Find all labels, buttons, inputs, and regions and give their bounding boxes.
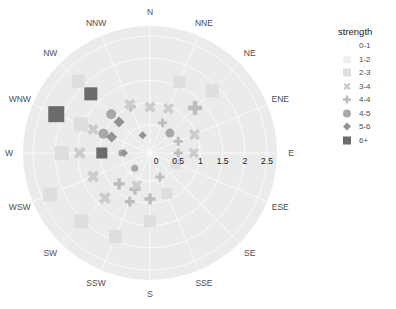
legend-item: 2-3 xyxy=(338,66,396,80)
data-point-2-3 xyxy=(161,188,172,199)
direction-label-nnw: NNW xyxy=(86,18,106,28)
radial-tick-label: 0 xyxy=(154,156,159,166)
data-point-4-5 xyxy=(106,109,116,119)
direction-label-wsw: WSW xyxy=(9,202,31,212)
radial-tick-label: 0.5 xyxy=(172,156,184,166)
legend-item: 4-5 xyxy=(338,107,396,121)
direction-label-w: W xyxy=(5,148,13,158)
legend-item: 6+ xyxy=(338,134,396,148)
direction-label-e: E xyxy=(288,148,294,158)
plus-icon xyxy=(343,96,351,104)
legend-label: 3-4 xyxy=(359,82,371,91)
data-point-6plus xyxy=(48,106,64,122)
legend-label: 6+ xyxy=(359,136,368,145)
radial-tick-label: 1.5 xyxy=(217,156,229,166)
legend: strength 0-11-22-33-44-44-55-66+ xyxy=(338,26,396,147)
legend-key-square-icon xyxy=(338,66,356,79)
data-point-4-5 xyxy=(165,129,174,138)
wind-rose-chart: 00.511.522.5 NNNENEENEEESESESSESSSWSWWSW… xyxy=(0,0,396,309)
data-point-2-3 xyxy=(55,146,69,160)
legend-label: 4-5 xyxy=(359,109,371,118)
legend-label: 4-4 xyxy=(359,95,371,104)
legend-item: 5-6 xyxy=(338,120,396,134)
direction-label-sse: SSE xyxy=(195,278,212,288)
data-point-6plus xyxy=(84,87,97,100)
legend-key-diamond-icon xyxy=(338,120,356,133)
direction-label-nw: NW xyxy=(43,48,57,58)
legend-label: 5-6 xyxy=(359,122,371,131)
direction-label-ssw: SSW xyxy=(86,278,105,288)
legend-key-plus-icon xyxy=(338,93,356,106)
legend-title: strength xyxy=(338,26,396,37)
data-point-2-3 xyxy=(206,84,219,97)
radial-tick-label: 2 xyxy=(242,156,247,166)
data-point-2-3 xyxy=(109,230,122,243)
data-point-2-3 xyxy=(43,187,57,201)
legend-item: 0-1 xyxy=(338,39,396,53)
legend-key-circle-icon xyxy=(338,53,356,66)
data-point-6plus xyxy=(96,148,107,159)
legend-item: 4-4 xyxy=(338,93,396,107)
circle-icon xyxy=(343,55,351,63)
square-icon xyxy=(343,69,351,77)
circle-icon xyxy=(343,109,351,117)
legend-item: 3-4 xyxy=(338,80,396,94)
data-point-4-5 xyxy=(131,165,138,172)
direction-label-ese: ESE xyxy=(272,202,289,212)
dot-icon xyxy=(346,44,349,47)
radial-tick-label: 2.5 xyxy=(261,156,273,166)
data-point-2-3 xyxy=(144,215,156,227)
legend-label: 1-2 xyxy=(359,55,371,64)
legend-key-square-icon xyxy=(338,134,356,147)
data-point-2-3 xyxy=(72,75,85,88)
direction-label-s: S xyxy=(147,289,153,299)
radial-tick-label: 1 xyxy=(198,156,203,166)
direction-label-wnw: WNW xyxy=(9,94,31,104)
legend-label: 0-1 xyxy=(359,41,371,50)
data-point-2-3 xyxy=(74,215,88,229)
data-point-2-3 xyxy=(173,76,185,88)
data-point-2-3 xyxy=(74,117,88,131)
direction-label-n: N xyxy=(147,7,153,17)
legend-key-circle-icon xyxy=(338,107,356,120)
square-icon xyxy=(343,136,351,144)
legend-key-cross-icon xyxy=(338,80,356,93)
legend-item: 1-2 xyxy=(338,53,396,67)
legend-key-dot-icon xyxy=(338,39,356,52)
legend-label: 2-3 xyxy=(359,68,371,77)
direction-label-ne: NE xyxy=(244,48,256,58)
cross-icon xyxy=(341,81,352,92)
direction-label-se: SE xyxy=(244,248,256,258)
diamond-icon xyxy=(343,123,351,131)
direction-label-sw: SW xyxy=(43,248,57,258)
direction-label-ene: ENE xyxy=(272,94,290,104)
direction-label-nne: NNE xyxy=(195,18,213,28)
